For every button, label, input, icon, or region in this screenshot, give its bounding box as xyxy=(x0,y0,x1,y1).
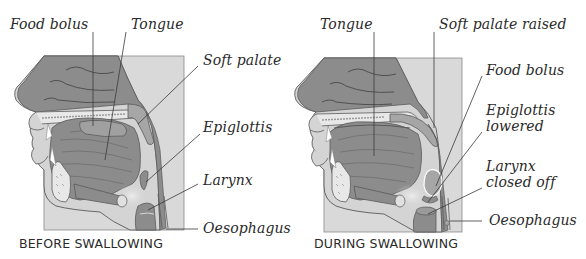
during-swallowing-panel: Tongue Soft palate raised Food bolus Epi… xyxy=(290,0,586,259)
label-food-bolus: Food bolus xyxy=(10,16,88,32)
label-oesophagus: Oesophagus xyxy=(489,212,577,228)
label-tongue: Tongue xyxy=(131,16,184,32)
label-oesophagus: Oesophagus xyxy=(203,220,291,236)
label-food-bolus: Food bolus xyxy=(486,62,564,78)
label-epiglottis-lowered-line1: Epiglottis xyxy=(486,102,555,118)
label-soft-palate: Soft palate xyxy=(203,52,281,68)
label-epiglottis: Epiglottis xyxy=(203,119,272,135)
label-larynx-closed-off-line1: Larynx xyxy=(486,158,536,174)
label-larynx: Larynx xyxy=(203,172,253,188)
before-swallowing-panel: Food bolus Tongue Soft palate Epiglottis… xyxy=(0,0,290,259)
label-tongue: Tongue xyxy=(320,16,373,32)
caption-before-swallowing: BEFORE SWALLOWING xyxy=(19,236,163,251)
label-soft-palate-raised: Soft palate raised xyxy=(439,16,567,32)
label-epiglottis-lowered-line2: lowered xyxy=(486,118,544,134)
caption-during-swallowing: DURING SWALLOWING xyxy=(314,236,458,251)
label-larynx-closed-off-line2: closed off xyxy=(486,174,555,190)
